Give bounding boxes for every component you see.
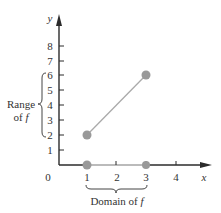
y-axis-arrow-icon (56, 14, 62, 26)
y-tick-label-3: 3 (47, 114, 53, 126)
range-label-line2: of f (14, 111, 31, 123)
y-axis-label: y (47, 12, 53, 24)
function-segment (87, 75, 146, 135)
endpoint-3-6 (142, 71, 151, 80)
y-tick-label-7: 7 (47, 55, 53, 67)
x-tick-label-4: 4 (173, 171, 179, 183)
endpoint-1-2 (83, 131, 92, 140)
domain-endpoint-1 (83, 161, 92, 170)
range-label-line1: Range (7, 98, 35, 110)
range-label-text: of (14, 111, 26, 123)
x-tick-label-3: 3 (143, 171, 149, 183)
range-brace-icon (38, 73, 46, 137)
x-tick-label-1: 1 (84, 171, 90, 183)
y-tick-label-4: 4 (47, 99, 53, 111)
y-tick-label-8: 8 (47, 40, 53, 52)
domain-endpoint-3 (142, 161, 150, 169)
domain-label: Domain of f (90, 195, 145, 207)
y-ticks (59, 46, 64, 150)
domain-label-text: Domain of (90, 195, 140, 207)
function-domain-range-diagram: 1 2 3 4 5 6 7 8 y 0 1 2 3 4 x Range of f… (0, 0, 221, 213)
x-tick-label-2: 2 (114, 171, 120, 183)
y-tick-label-5: 5 (47, 84, 53, 96)
x-axis-arrow-icon (200, 162, 212, 168)
domain-brace-icon (86, 185, 147, 193)
origin-label: 0 (45, 171, 51, 183)
x-axis-label: x (201, 171, 207, 183)
y-tick-label-2: 2 (47, 129, 53, 141)
y-tick-label-6: 6 (47, 69, 53, 81)
range-label-f: f (25, 111, 30, 123)
y-tick-label-1: 1 (47, 144, 53, 156)
domain-label-f: f (141, 195, 146, 207)
